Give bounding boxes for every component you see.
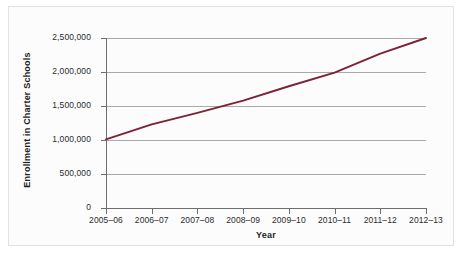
x-tick-label: 2007–08 xyxy=(181,215,215,225)
x-tick-label: 2010–11 xyxy=(318,215,351,225)
y-tick-label: 2,000,000 xyxy=(9,66,97,76)
y-tick-mark xyxy=(101,208,106,209)
x-tick-mark xyxy=(426,209,427,214)
y-tick-label: 1,000,000 xyxy=(9,134,97,144)
y-tick-label: 500,000 xyxy=(9,168,97,178)
y-tick-mark xyxy=(101,174,106,175)
x-tick-label: 2008–09 xyxy=(226,215,260,225)
y-tick-mark xyxy=(101,106,106,107)
y-tick-label: 1,500,000 xyxy=(9,100,97,110)
x-tick-mark xyxy=(335,209,336,214)
y-tick-label: 0 xyxy=(9,202,97,212)
y-axis-tick-labels: 0500,0001,000,0001,500,0002,000,0002,500… xyxy=(9,7,97,256)
x-tick-mark xyxy=(380,209,381,214)
enrollment-polyline xyxy=(106,38,426,139)
x-tick-label: 2011–12 xyxy=(364,215,397,225)
x-tick-mark xyxy=(289,209,290,214)
y-tick-mark xyxy=(101,38,106,39)
x-tick-mark xyxy=(152,209,153,214)
x-tick-label: 2009–10 xyxy=(272,215,306,225)
x-axis-title: Year xyxy=(106,230,426,240)
chart-figure: Enrollment in Charter Schools 0500,0001,… xyxy=(0,0,462,256)
y-tick-label: 2,500,000 xyxy=(9,32,97,42)
y-tick-mark xyxy=(101,72,106,73)
x-tick-mark xyxy=(106,209,107,214)
x-tick-mark xyxy=(243,209,244,214)
y-tick-mark xyxy=(101,140,106,141)
x-tick-label: 2006–07 xyxy=(135,215,169,225)
x-tick-label: 2012–13 xyxy=(409,215,443,225)
series-line-enrollment xyxy=(106,38,426,209)
chart-panel: Enrollment in Charter Schools 0500,0001,… xyxy=(8,6,454,246)
x-tick-mark xyxy=(197,209,198,214)
x-tick-label: 2005–06 xyxy=(89,215,123,225)
